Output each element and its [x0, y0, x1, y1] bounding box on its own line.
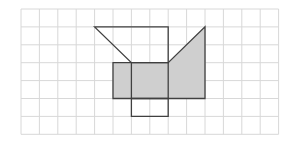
- grid-diagram: [0, 0, 288, 143]
